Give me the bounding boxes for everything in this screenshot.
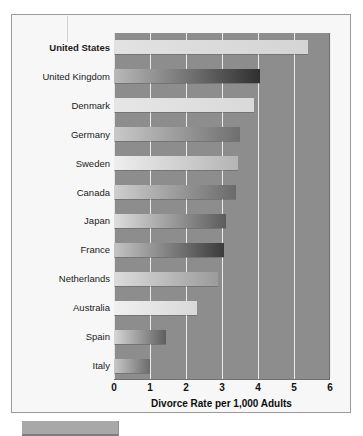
bar (114, 40, 308, 54)
bar-row (114, 264, 218, 293)
bar-row (114, 120, 240, 149)
bar (114, 301, 197, 315)
footer-accent-bar (22, 421, 119, 436)
x-tick-label: 3 (219, 382, 225, 393)
category-label: United States (18, 42, 110, 53)
gridline (294, 33, 295, 379)
bar (114, 214, 226, 228)
bar (114, 359, 150, 373)
category-label: Canada (18, 187, 110, 198)
bar (114, 156, 238, 170)
bar-row (114, 207, 226, 236)
bar-row (114, 322, 166, 351)
category-label: United Kingdom (18, 71, 110, 82)
category-label: Australia (18, 302, 110, 313)
bar (114, 185, 236, 199)
category-axis-labels: United StatesUnited KingdomDenmarkGerman… (12, 33, 110, 379)
x-tick-label: 1 (147, 382, 153, 393)
bar-row (114, 33, 308, 62)
x-axis-title: Divorce Rate per 1,000 Adults (114, 398, 329, 409)
bar (114, 69, 260, 83)
x-tick-label: 5 (291, 382, 297, 393)
bar (114, 330, 166, 344)
x-axis-ticks: 0123456 (114, 382, 329, 396)
category-label: Sweden (18, 158, 110, 169)
category-label: Italy (18, 360, 110, 371)
bar (114, 243, 224, 257)
bar (114, 127, 240, 141)
chart-figure: United StatesUnited KingdomDenmarkGerman… (11, 14, 351, 413)
bar-row (114, 178, 236, 207)
category-label: France (18, 244, 110, 255)
plot-area (114, 33, 330, 380)
x-tick-label: 6 (327, 382, 333, 393)
bar-row (114, 62, 260, 91)
bar (114, 272, 218, 286)
x-tick-label: 4 (255, 382, 261, 393)
gridline (330, 33, 331, 379)
category-label: Denmark (18, 100, 110, 111)
bar-row (114, 91, 254, 120)
x-tick-label: 2 (183, 382, 189, 393)
category-label: Japan (18, 215, 110, 226)
category-label: Netherlands (18, 273, 110, 284)
bar-row (114, 293, 197, 322)
bar-row (114, 235, 224, 264)
bar (114, 98, 254, 112)
bar-row (114, 149, 238, 178)
bar-row (114, 351, 150, 380)
category-label: Spain (18, 331, 110, 342)
x-tick-label: 0 (111, 382, 117, 393)
category-label: Germany (18, 129, 110, 140)
